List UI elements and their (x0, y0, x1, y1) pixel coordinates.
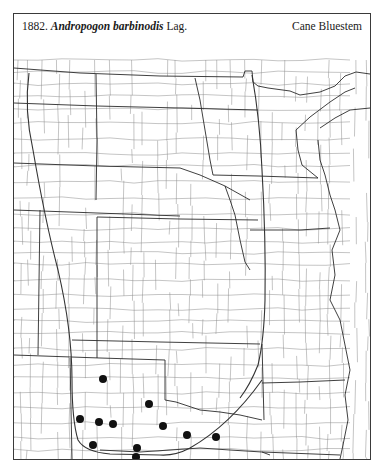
occurrence-dot (133, 444, 141, 452)
occurrence-dot (99, 375, 107, 383)
distribution-map (13, 13, 371, 460)
county-lines (14, 59, 369, 459)
occurrence-dot (89, 441, 97, 449)
state-boundaries (14, 68, 370, 459)
occurrence-dot (159, 422, 167, 430)
occurrence-dot (109, 420, 117, 428)
eastern-range-line (240, 75, 265, 398)
occurrence-dot (95, 418, 103, 426)
occurrence-dot (212, 433, 220, 441)
occurrence-dot (76, 415, 84, 423)
occurrence-dot (145, 400, 153, 408)
occurrence-dot (183, 431, 191, 439)
